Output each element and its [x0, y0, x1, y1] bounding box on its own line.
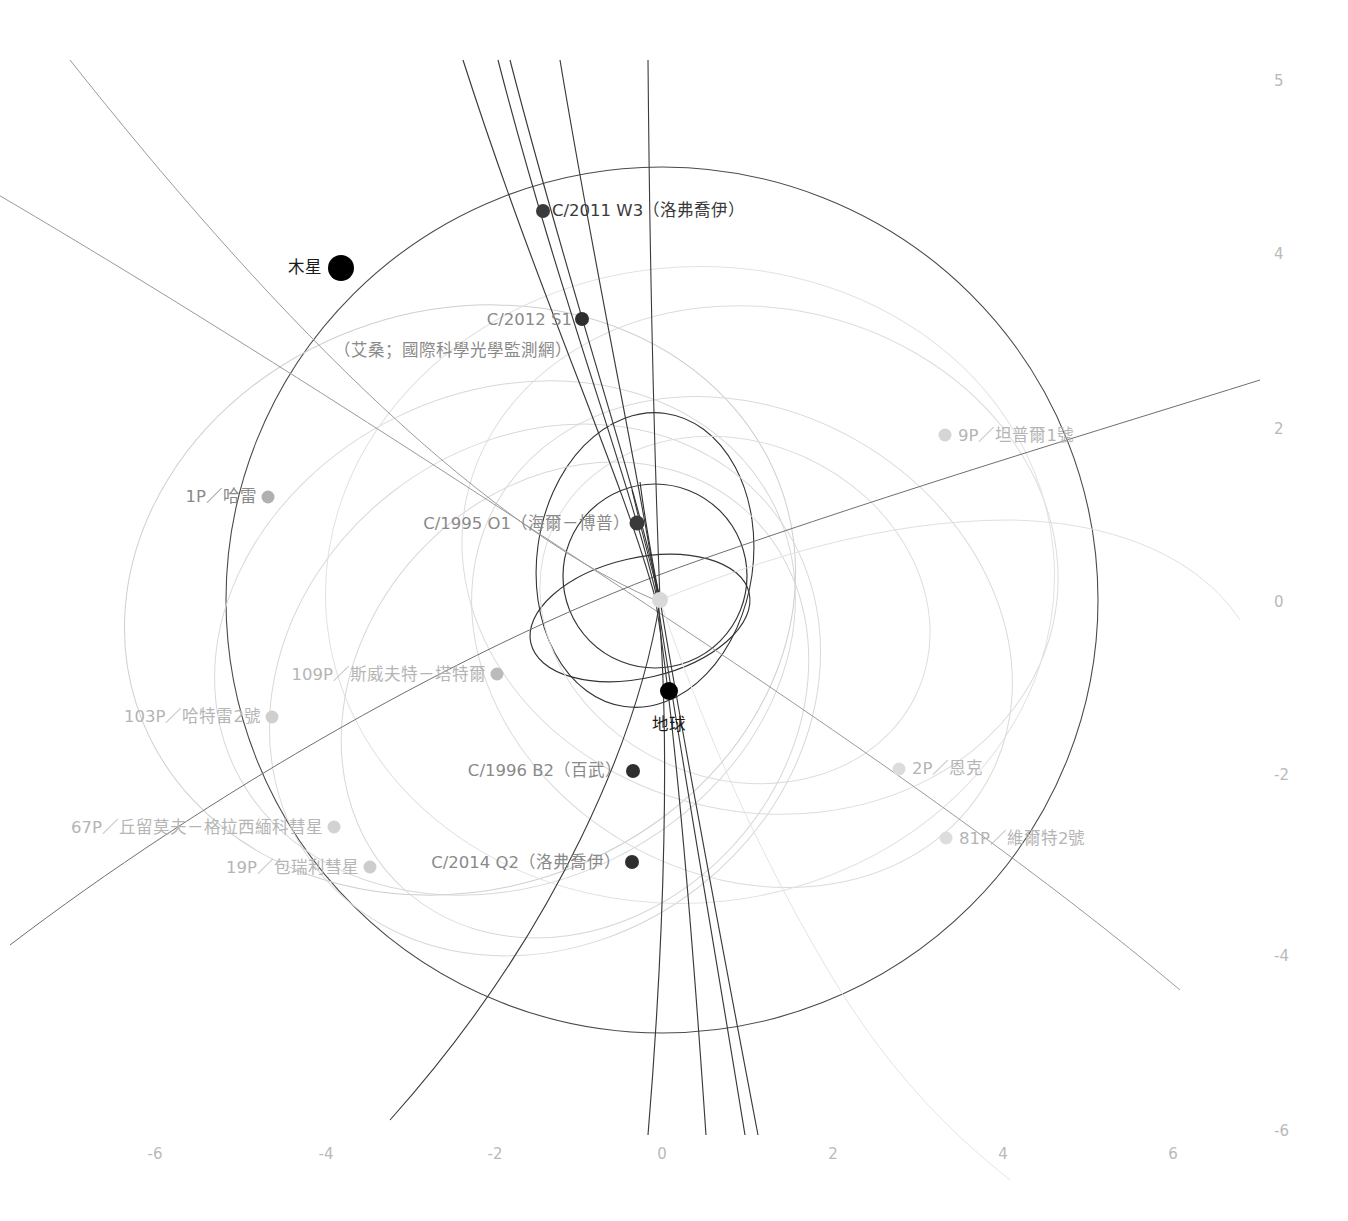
marker-c2014q2: [625, 855, 639, 869]
marker-67p-churyumov: [328, 821, 341, 834]
x-tick-3: 0: [657, 1145, 667, 1163]
marker-1p-halley: [262, 491, 275, 504]
x-tick-5: 4: [998, 1145, 1008, 1163]
marker-sun: [652, 592, 668, 608]
marker-earth: [660, 682, 678, 700]
label-c2012s1-sub: （艾桑；國際科學光學監測網）: [334, 337, 572, 361]
y-tick-3: 0: [1274, 593, 1284, 611]
x-tick-1: -4: [319, 1145, 334, 1163]
marker-c1995o1: [630, 516, 645, 531]
label-109p-swift-tuttle: 109P／斯威夫特－塔特爾: [292, 664, 486, 686]
y-tick-6: -6: [1274, 1122, 1289, 1140]
comet-orbit-plot: -6 -4 -2 0 2 4 6 5 4 2 0 -2 -4 -6 木星 地球 …: [0, 0, 1348, 1221]
y-tick-5: -4: [1274, 947, 1289, 965]
label-1p-halley: 1P／哈雷: [186, 486, 257, 508]
x-tick-2: -2: [488, 1145, 503, 1163]
label-c2012s1: C/2012 S1: [487, 309, 572, 331]
y-tick-4: -2: [1274, 766, 1289, 784]
x-tick-6: 6: [1168, 1145, 1178, 1163]
marker-2p-encke: [893, 763, 906, 776]
orbit-churyumov-gerasimenko: [163, 314, 928, 1065]
marker-103p-hartley2: [266, 711, 279, 724]
x-tick-0: -6: [148, 1145, 163, 1163]
label-9p-tempel1: 9P／坦普爾1號: [958, 425, 1074, 447]
y-tick-2: 2: [1274, 420, 1284, 438]
label-103p-hartley2: 103P／哈特雷2號: [124, 706, 261, 728]
orbit-hartley2: [128, 285, 883, 990]
orbit-canvas: [0, 0, 1348, 1221]
y-tick-0: 5: [1274, 72, 1284, 90]
label-c1995o1: C/1995 O1（海爾－博普）: [423, 513, 630, 535]
marker-c1996b2: [626, 764, 640, 778]
label-c2011w3: C/2011 W3（洛弗喬伊）: [552, 200, 745, 222]
label-2p-encke: 2P／恩克: [912, 758, 983, 780]
label-jupiter: 木星: [288, 257, 322, 279]
label-c2014q2: C/2014 Q2（洛弗喬伊）: [431, 852, 621, 874]
x-tick-4: 2: [828, 1145, 838, 1163]
marker-81p-wild2: [940, 832, 953, 845]
label-earth: 地球: [652, 714, 686, 736]
label-81p-wild2: 81P／維爾特2號: [959, 828, 1085, 850]
marker-jupiter: [328, 255, 354, 281]
label-19p-borrelly: 19P／包瑞利彗星: [226, 857, 359, 879]
marker-19p-borrelly: [364, 861, 377, 874]
label-c1996b2: C/1996 B2（百武）: [468, 760, 622, 782]
marker-109p-swift-tuttle: [491, 668, 504, 681]
orbit-faint-arc-lower: [660, 600, 1010, 1180]
marker-9p-tempel1: [939, 429, 952, 442]
label-67p-churyumov: 67P／丘留莫夫－格拉西緬科彗星: [71, 817, 323, 839]
marker-c2011w3: [536, 204, 550, 218]
y-tick-1: 4: [1274, 245, 1284, 263]
marker-c2012s1: [575, 312, 589, 326]
